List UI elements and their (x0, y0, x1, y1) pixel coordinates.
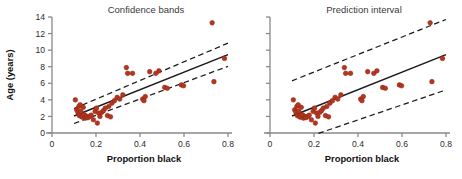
data-point (291, 98, 296, 103)
data-point (125, 71, 130, 76)
x-tick-label: 0.6 (178, 139, 190, 149)
data-point (94, 106, 99, 111)
y-tick-label: 10 (35, 45, 45, 55)
figure-root: Confidence bands0246810121400.20.40.60.8… (0, 0, 462, 179)
data-point (78, 109, 83, 114)
x-tick-label: 0.8 (440, 139, 452, 149)
data-point (348, 71, 353, 76)
data-points (73, 20, 227, 125)
data-point (91, 117, 96, 122)
data-point (120, 93, 125, 98)
data-point (124, 65, 129, 70)
y-tick-label: 14 (35, 12, 45, 22)
data-point (210, 20, 215, 25)
data-point (313, 121, 318, 126)
x-tick-label: 0.2 (308, 139, 320, 149)
y-tick-label: 8 (40, 62, 45, 72)
data-point (312, 106, 317, 111)
data-points (291, 20, 445, 125)
y-tick-label: 4 (40, 95, 45, 105)
panel-title: Confidence bands (108, 4, 185, 15)
data-point (181, 83, 186, 88)
data-point (130, 71, 135, 76)
x-tick-label: 0.6 (396, 139, 408, 149)
panel-confidence: Confidence bands0246810121400.20.40.60.8… (35, 4, 234, 164)
data-point (165, 86, 170, 91)
data-point (430, 79, 435, 84)
data-point (117, 97, 122, 102)
data-point (343, 71, 348, 76)
data-point (326, 114, 331, 119)
data-point (335, 97, 340, 102)
panel-title: Prediction interval (326, 4, 402, 15)
x-axis-title: Proportion black (107, 153, 182, 164)
data-point (428, 20, 433, 25)
x-tick-label: 0.8 (222, 139, 234, 149)
data-point (361, 94, 366, 99)
y-tick-label: 0 (40, 128, 45, 138)
x-tick-label: 0.4 (352, 139, 364, 149)
data-point (342, 65, 347, 70)
band-upper-line (74, 43, 228, 108)
x-tick-label: 0.2 (90, 139, 102, 149)
data-point (108, 114, 113, 119)
data-point (338, 93, 343, 98)
data-point (375, 69, 380, 74)
data-point (157, 69, 162, 74)
data-point (212, 79, 217, 84)
data-point (309, 117, 314, 122)
x-axis-title: Proportion black (325, 153, 400, 164)
x-tick-label: 0 (50, 139, 55, 149)
data-point (299, 105, 304, 110)
data-point (147, 69, 152, 74)
chart-canvas: Confidence bands0246810121400.20.40.60.8… (0, 0, 462, 179)
data-point (95, 121, 100, 126)
data-point (440, 56, 445, 61)
data-point (143, 94, 148, 99)
data-point (383, 86, 388, 91)
data-point (307, 113, 312, 118)
data-point (73, 98, 78, 103)
data-point (399, 83, 404, 88)
data-point (89, 113, 94, 118)
y-tick-label: 6 (40, 78, 45, 88)
y-tick-label: 2 (40, 112, 45, 122)
y-tick-label: 12 (35, 29, 45, 39)
x-tick-label: 0.4 (134, 139, 146, 149)
y-axis-title: Age (years) (4, 49, 15, 100)
data-point (365, 69, 370, 74)
data-point (81, 105, 86, 110)
data-point (296, 109, 301, 114)
panel-prediction: Prediction interval00.20.40.60.8Proporti… (264, 4, 452, 164)
x-tick-label: 0 (268, 139, 273, 149)
data-point (222, 56, 227, 61)
